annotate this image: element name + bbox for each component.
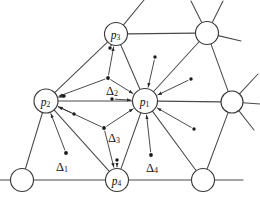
incidence-dot [115,158,118,161]
boundary-stub-edge [243,103,260,104]
boundary-stubs-layer [0,0,260,180]
boundary-stub-edge [239,111,254,130]
triangle-label-d2: Δ2 [106,84,118,98]
vertex-node-unlabeled [11,169,34,192]
boundary-stub-edge [212,1,223,23]
incidence-dot [62,94,65,97]
incidence-arrow [148,60,154,87]
incidence-arrow [107,109,134,126]
graph-edge [121,113,141,169]
graph-edge [153,42,199,92]
graph-edge [55,42,108,93]
triangle-marker-dot [149,153,153,157]
graph-edge [152,111,196,171]
graph-edge [207,112,228,169]
graph-edge [128,33,196,34]
triangle-marker-dot [102,126,106,130]
incidence-arrows-layer [51,45,191,167]
triangle-label-d1: Δ1 [56,160,68,174]
vertex-node-unlabeled [196,22,219,45]
vertex-node-unlabeled [221,91,243,113]
incidence-arrow [115,99,131,100]
vertex-node-unlabeled [192,169,215,192]
diagram-canvas: Δ1Δ2Δ3Δ4p1p2p3p4 [0,0,260,198]
incidence-arrow [58,107,71,113]
graph-edge [158,101,222,102]
graph-edge [25,112,42,169]
incidence-dot [192,127,195,130]
triangle-marker-dot [64,151,68,155]
incidence-arrow [109,47,114,75]
triangle-label-d3: Δ3 [108,131,120,145]
incidence-dot [108,46,111,49]
incidence-dot [153,55,156,58]
triangle-label-d4: Δ4 [146,161,158,175]
triangle-marker-dot [106,76,110,80]
boundary-stub-edge [218,36,241,41]
boundary-stub-edge [123,0,144,25]
incidence-arrow [59,97,61,98]
incidence-dot [72,112,75,115]
boundary-stub-edge [239,74,258,94]
triangulation-figure: Δ1Δ2Δ3Δ4p1p2p3p4 [0,0,260,198]
incidence-arrow [147,115,151,152]
boundary-stub-edge [191,1,202,23]
graph-edge [121,45,140,90]
graph-edge [211,44,228,92]
incidence-dot [189,77,192,80]
